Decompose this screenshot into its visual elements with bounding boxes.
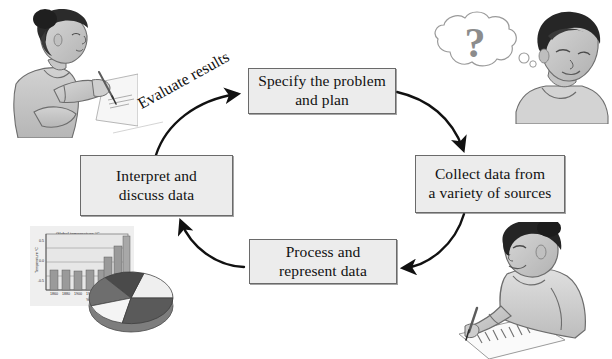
top-caption-partial (70, 0, 320, 5)
question-mark-icon: ? (465, 20, 486, 66)
illustration-thinker-right: ? (420, 6, 610, 124)
ear (536, 245, 546, 259)
thought-dot-2 (530, 61, 536, 67)
node-specify-line1: Specify the problem (258, 72, 386, 91)
arrow-evaluate-results (156, 94, 237, 155)
bar-1880 (62, 270, 70, 290)
thought-dot-1 (519, 53, 529, 63)
bar-1860 (50, 270, 58, 290)
node-process-line2: represent data (279, 262, 367, 281)
hair-bun (33, 9, 57, 29)
node-process-and-represent-data[interactable]: Process and represent data (249, 239, 397, 284)
node-specify-line2: and plan (258, 91, 386, 110)
illustration-charts: Global temperature °C Temperature °C 0.5… (30, 226, 175, 336)
ear (539, 49, 549, 63)
shirt (516, 86, 608, 124)
bar-1900 (74, 271, 82, 290)
illustration-woman-writing-left (8, 8, 138, 138)
process-cycle-diagram: ? (0, 0, 612, 359)
node-process-line1: Process and (279, 243, 367, 262)
node-interpret-line2: discuss data (116, 186, 197, 205)
mini-pie-chart (86, 256, 176, 336)
arrow-process-to-interpret (181, 222, 244, 267)
node-collect-data-from-a-variety-of-sources[interactable]: Collect data from a variety of sources (415, 155, 565, 213)
node-collect-line2: a variety of sources (429, 184, 552, 203)
node-interpret-and-discuss-data[interactable]: Interpret and discuss data (80, 155, 233, 216)
pie-slices (89, 272, 173, 324)
node-interpret-line1: Interpret and (116, 167, 197, 186)
illustration-woman-writing-right (455, 222, 612, 359)
node-specify-the-problem-and-plan[interactable]: Specify the problem and plan (248, 68, 396, 114)
node-collect-line1: Collect data from (429, 165, 552, 184)
ear (54, 34, 62, 46)
